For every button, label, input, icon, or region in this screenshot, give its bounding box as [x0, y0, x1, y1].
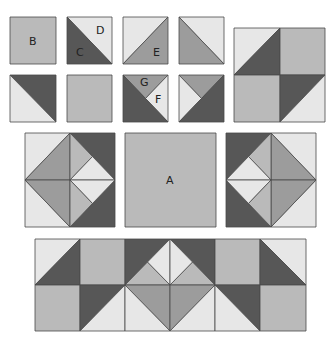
- quilt-block-diagram: BDCEGFA: [0, 0, 334, 347]
- patch-label-b: B: [29, 35, 37, 48]
- strip-r2c5: [260, 285, 306, 331]
- strip-r1c4: [215, 239, 260, 285]
- strip-r1c1: [80, 239, 125, 285]
- patch-label-c: C: [76, 46, 84, 59]
- patch-label-d: D: [96, 24, 104, 37]
- block-tr-q3: [234, 75, 280, 122]
- patch-label-g: G: [140, 76, 149, 89]
- patch-label-a: A: [166, 174, 174, 187]
- block-tr-q2: [280, 28, 325, 75]
- patch-label-f: F: [155, 93, 161, 106]
- patch-label-e: E: [153, 46, 160, 59]
- strip-r2c0: [35, 285, 80, 331]
- patch-6: [67, 75, 112, 122]
